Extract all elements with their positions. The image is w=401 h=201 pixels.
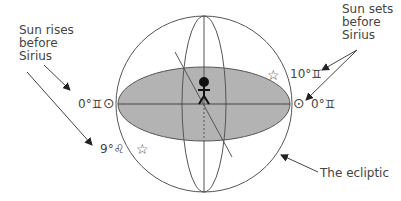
label-sun-rises: Sun rises before Sirius [19, 24, 74, 63]
left-horizon-position: 0°♊ [78, 98, 102, 111]
sun-icon: ⊙ [103, 97, 115, 110]
star-icon: ☆ [136, 143, 149, 156]
right-star-position: 10°♊ [290, 68, 322, 81]
label-ecliptic: The ecliptic [320, 167, 389, 180]
label-sun-sets: Sun sets before Sirius [342, 3, 393, 42]
right-horizon-position: 0°♊ [311, 98, 335, 111]
sun-icon: ⊙ [293, 97, 305, 110]
star-icon: ☆ [267, 69, 280, 82]
arrow-sun-rises-1 [44, 65, 70, 90]
left-star-position: 9°♌ [100, 143, 124, 156]
arrow-ecliptic [281, 155, 318, 172]
